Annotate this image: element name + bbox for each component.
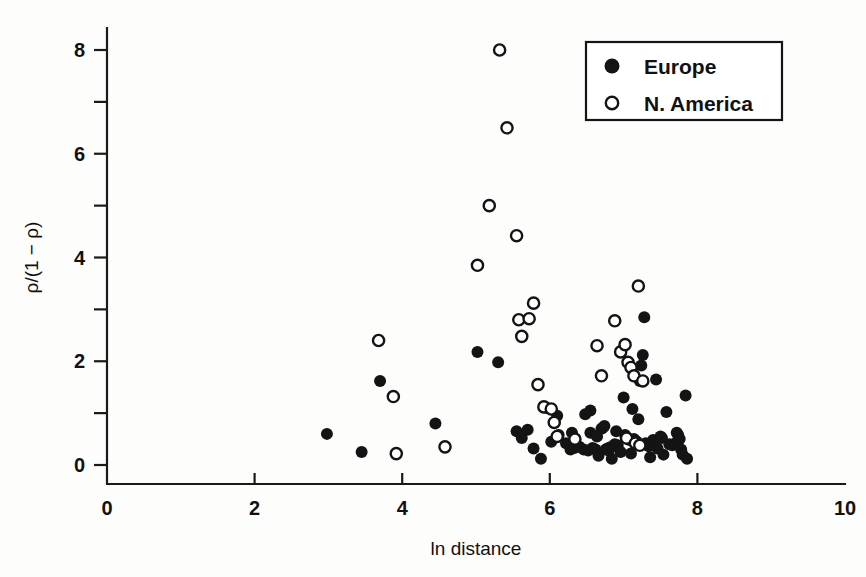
x-tick-label: 2 <box>249 497 260 519</box>
data-point-europe <box>615 446 627 458</box>
data-point-europe <box>618 392 630 404</box>
data-point-n-america <box>388 391 399 402</box>
data-point-europe <box>584 405 596 417</box>
x-tick-label: 10 <box>834 497 856 519</box>
y-tick-label: 2 <box>74 350 85 372</box>
legend: EuropeN. America <box>586 42 782 120</box>
data-point-europe <box>356 446 368 458</box>
data-point-n-america <box>516 331 527 342</box>
data-point-europe <box>680 389 692 401</box>
data-point-n-america <box>484 200 495 211</box>
data-point-europe <box>429 418 441 430</box>
data-point-europe <box>657 449 669 461</box>
data-point-n-america <box>511 230 522 241</box>
data-point-n-america <box>633 280 644 291</box>
data-point-n-america <box>532 379 543 390</box>
data-point-n-america <box>391 448 402 459</box>
data-point-europe <box>674 433 686 445</box>
data-point-n-america <box>546 403 557 414</box>
data-point-europe <box>650 373 662 385</box>
data-point-europe <box>637 349 649 361</box>
x-tick-label: 4 <box>397 497 409 519</box>
plot-canvas: 024680246810 ln distanceρ/(1 − ρ) Europe… <box>0 0 866 577</box>
data-point-europe <box>681 453 693 465</box>
legend-label: Europe <box>644 55 716 78</box>
data-point-europe <box>660 406 672 418</box>
data-point-europe <box>492 356 504 368</box>
svg-text:ρ/(1 − ρ): ρ/(1 − ρ) <box>21 222 42 294</box>
data-point-europe <box>598 420 610 432</box>
data-point-europe <box>626 403 638 415</box>
y-tick-label: 8 <box>74 39 85 61</box>
x-tick-label: 6 <box>544 497 555 519</box>
data-point-n-america <box>524 313 535 324</box>
data-point-europe <box>632 413 644 425</box>
x-axis-title: ln distance <box>431 538 522 559</box>
data-point-n-america <box>549 417 560 428</box>
data-point-n-america <box>637 375 648 386</box>
data-point-n-america <box>609 315 620 326</box>
scatter-plot-figure: 024680246810 ln distanceρ/(1 − ρ) Europe… <box>0 0 866 577</box>
data-point-n-america <box>619 339 630 350</box>
data-point-n-america <box>472 260 483 271</box>
legend-marker-open-circle-icon <box>606 97 618 109</box>
data-point-europe <box>528 442 540 454</box>
data-point-n-america <box>528 298 539 309</box>
y-tick-label: 4 <box>74 247 86 269</box>
data-point-n-america <box>373 335 384 346</box>
data-point-europe <box>638 311 650 323</box>
data-point-n-america <box>501 122 512 133</box>
data-point-n-america <box>569 433 580 444</box>
data-point-europe <box>321 428 333 440</box>
data-point-n-america <box>591 340 602 351</box>
data-point-n-america <box>596 370 607 381</box>
data-point-n-america <box>494 44 505 55</box>
data-point-n-america <box>552 431 563 442</box>
x-tick-label: 0 <box>101 497 112 519</box>
data-point-europe <box>522 424 534 436</box>
y-tick-label: 6 <box>74 143 85 165</box>
data-point-europe <box>535 453 547 465</box>
data-point-europe <box>471 346 483 358</box>
y-axis-title: ρ/(1 − ρ) <box>21 222 42 294</box>
legend-label: N. America <box>644 92 753 115</box>
legend-marker-filled-circle-icon <box>605 59 620 74</box>
x-tick-label: 8 <box>692 497 703 519</box>
data-point-n-america <box>439 441 450 452</box>
data-point-n-america <box>634 440 645 451</box>
axis-labels: ln distanceρ/(1 − ρ) <box>21 222 521 559</box>
data-point-europe <box>374 375 386 387</box>
y-tick-label: 0 <box>74 454 85 476</box>
